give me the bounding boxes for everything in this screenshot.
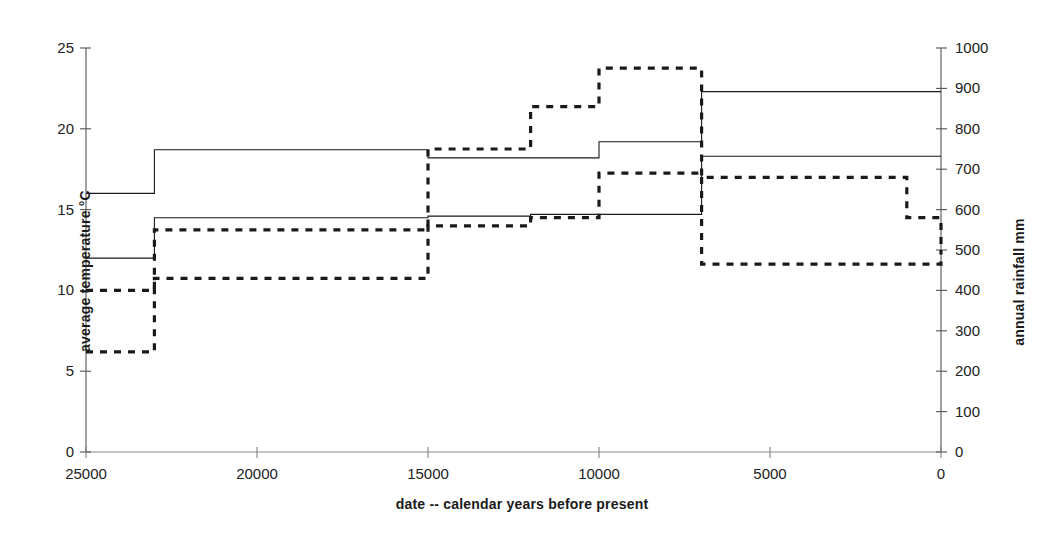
y-tick-label-left: 20 bbox=[57, 120, 74, 137]
x-tick-label: 10000 bbox=[578, 465, 620, 482]
y-tick-label-left: 25 bbox=[57, 39, 74, 56]
y-tick-label-right: 100 bbox=[955, 403, 980, 420]
tick-labels-group: 0510152025010020030040050060070080090010… bbox=[57, 39, 988, 482]
chart-container: 0510152025010020030040050060070080090010… bbox=[0, 0, 1044, 542]
x-tick-label: 15000 bbox=[407, 465, 449, 482]
y-tick-label-right: 700 bbox=[955, 160, 980, 177]
x-tick-label: 5000 bbox=[753, 465, 786, 482]
y-tick-label-left: 15 bbox=[57, 201, 74, 218]
axes-group bbox=[80, 48, 947, 458]
series-line-3 bbox=[86, 173, 941, 352]
y-tick-label-left: 5 bbox=[66, 362, 74, 379]
y-axis-title-right: annual rainfall mm bbox=[1010, 218, 1026, 345]
x-tick-label: 20000 bbox=[236, 465, 278, 482]
y-tick-label-right: 600 bbox=[955, 201, 980, 218]
y-tick-label-right: 1000 bbox=[955, 39, 988, 56]
y-tick-label-left: 0 bbox=[66, 443, 74, 460]
y-tick-label-right: 900 bbox=[955, 79, 980, 96]
y-tick-label-right: 300 bbox=[955, 322, 980, 339]
y-tick-label-left: 10 bbox=[57, 281, 74, 298]
x-axis-title: date -- calendar years before present bbox=[0, 496, 1044, 512]
x-tick-label: 0 bbox=[937, 465, 945, 482]
series-line-2 bbox=[86, 68, 941, 290]
y-axis-title-left: average temperature °C bbox=[77, 190, 93, 352]
series-line-0 bbox=[86, 92, 941, 194]
y-tick-label-right: 200 bbox=[955, 362, 980, 379]
y-tick-label-right: 400 bbox=[955, 281, 980, 298]
chart-plot-svg: 0510152025010020030040050060070080090010… bbox=[0, 0, 1044, 542]
series-group bbox=[86, 68, 941, 352]
y-tick-label-right: 800 bbox=[955, 120, 980, 137]
x-tick-label: 25000 bbox=[65, 465, 107, 482]
series-line-1 bbox=[86, 156, 941, 258]
y-tick-label-right: 0 bbox=[955, 443, 963, 460]
y-tick-label-right: 500 bbox=[955, 241, 980, 258]
